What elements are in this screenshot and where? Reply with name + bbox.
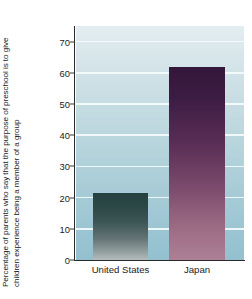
x-label-united-states: United States	[92, 264, 150, 275]
y-tick-label-10: 10	[60, 223, 70, 234]
x-axis-category-labels: United StatesJapan	[76, 264, 244, 286]
y-tick-label-60: 60	[60, 67, 70, 78]
bar-japan	[169, 67, 225, 260]
plot-area	[76, 26, 244, 260]
gridline-70	[76, 41, 244, 43]
y-tick-label-40: 40	[60, 130, 70, 141]
y-tick-label-30: 30	[60, 161, 70, 172]
bar-united-states	[93, 193, 148, 260]
y-axis-title: Percentage of parents who say that the p…	[0, 11, 46, 288]
y-tick-label-50: 50	[60, 99, 70, 110]
y-axis-title-container: Percentage of parents who say that the p…	[0, 0, 48, 299]
bar-chart-figure: Percentage of parents who say that the p…	[0, 0, 252, 299]
y-tick-label-70: 70	[60, 36, 70, 47]
x-axis-line	[74, 260, 245, 261]
y-axis-tick-labels: 706050403020100	[48, 0, 74, 299]
y-tick-label-20: 20	[60, 192, 70, 203]
x-label-japan: Japan	[184, 264, 210, 275]
